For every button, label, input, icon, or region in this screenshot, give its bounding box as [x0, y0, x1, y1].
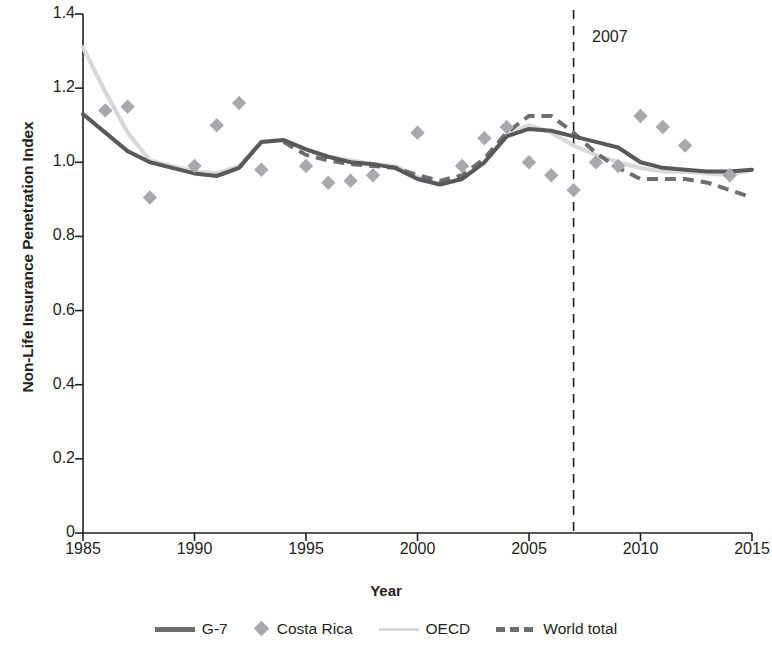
x-tick-label: 1985 — [43, 541, 123, 557]
x-tick-label: 2010 — [601, 541, 681, 557]
x-tick-label: 2015 — [712, 541, 772, 557]
x-axis-title: Year — [0, 582, 772, 599]
diamond-marker-swatch — [254, 622, 270, 636]
dashed-line-icon — [496, 627, 536, 632]
legend-label: Costa Rica — [277, 620, 353, 638]
x-tick-label: 1990 — [155, 541, 235, 557]
legend-label: World total — [543, 620, 617, 638]
series-marker-costa-rica — [678, 138, 692, 152]
x-axis-tick-labels: 1985199019952000200520102015 — [0, 541, 772, 567]
annotation-2007-label: 2007 — [592, 28, 628, 46]
legend-item-g-7[interactable]: G-7 — [155, 620, 228, 638]
series-marker-costa-rica — [566, 183, 580, 197]
solid-line-swatch — [155, 622, 195, 636]
chart-figure: Non-Life Insurance Penetration Index 1.4… — [0, 0, 772, 651]
diamond-icon — [253, 621, 269, 637]
legend-item-costa-rica[interactable]: Costa Rica — [254, 620, 353, 638]
chart-legend: G-7Costa RicaOECDWorld total — [0, 612, 772, 646]
solid-line-icon — [155, 627, 195, 632]
light-line-swatch — [379, 622, 419, 636]
series-marker-costa-rica — [544, 168, 558, 182]
light-line-icon — [379, 628, 419, 631]
series-marker-costa-rica — [477, 131, 491, 145]
series-marker-costa-rica — [410, 125, 424, 139]
series-marker-costa-rica — [455, 159, 469, 173]
x-tick-label: 2005 — [489, 541, 569, 557]
series-marker-costa-rica — [143, 190, 157, 204]
series-marker-costa-rica — [321, 175, 335, 189]
series-marker-costa-rica — [210, 118, 224, 132]
series-marker-costa-rica — [633, 109, 647, 123]
series-marker-costa-rica — [343, 174, 357, 188]
legend-item-oecd[interactable]: OECD — [379, 620, 471, 638]
series-marker-costa-rica — [366, 168, 380, 182]
legend-label: G-7 — [202, 620, 228, 638]
series-marker-costa-rica — [232, 96, 246, 110]
x-tick-label: 1995 — [266, 541, 346, 557]
series-marker-costa-rica — [656, 120, 670, 134]
legend-label: OECD — [426, 620, 471, 638]
series-marker-costa-rica — [120, 99, 134, 113]
series-marker-costa-rica — [254, 163, 268, 177]
x-tick-label: 2000 — [378, 541, 458, 557]
series-marker-costa-rica — [299, 159, 313, 173]
series-line-g7 — [83, 114, 752, 184]
series-marker-costa-rica — [522, 155, 536, 169]
legend-item-world-total[interactable]: World total — [496, 620, 617, 638]
dashed-line-swatch — [496, 622, 536, 636]
